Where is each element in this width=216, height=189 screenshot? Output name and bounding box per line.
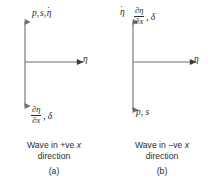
panel-b-vertical-top-label-etadot: η — [120, 8, 125, 18]
panel-b-vertical-bottom-label: p, s — [136, 108, 149, 118]
fraction-tail-delta: , δ — [43, 112, 52, 122]
panel-a-vertical-top-label: , p, s, η — [32, 9, 52, 19]
panel-b-vertical-top-label-fraction: ∂η ∂x , δ — [134, 6, 155, 26]
eta-dot-icon: η — [120, 8, 125, 18]
panel-a-caption-line2: direction — [38, 151, 70, 161]
figure-wave-direction-diagram: , p, s, η η ∂η ∂x , δ Wave in +ve x dire… — [0, 0, 216, 189]
panel-a-vertical-bottom-label: ∂η ∂x , δ — [31, 105, 52, 125]
panel-a-index-label: (a) — [0, 166, 108, 177]
panel-b: η ∂η ∂x , δ η p, s Wave in −ve x directi… — [108, 0, 216, 189]
panel-b-caption-line1-prefix: Wave in −ve — [135, 140, 185, 150]
panel-a-axes — [0, 0, 108, 135]
panel-a-caption: Wave in +ve x direction (a) — [0, 140, 108, 177]
panel-b-index-label: (b) — [108, 166, 216, 177]
panel-b-caption-line2: direction — [146, 151, 178, 161]
fraction-denominator: ∂x — [31, 116, 41, 126]
panel-b-caption: Wave in −ve x direction (b) — [108, 140, 216, 177]
panel-a-horizontal-axis-label: η — [83, 55, 88, 65]
fraction-tail-delta: , δ — [146, 13, 155, 23]
panel-b-axes — [108, 0, 216, 135]
panel-a-top-label-text: p, s, η — [32, 8, 52, 18]
panel-b-caption-line1-var: x — [185, 140, 189, 150]
partial-eta-partial-x-fraction: ∂η ∂x — [134, 6, 144, 26]
panel-a-caption-line1-var: x — [77, 140, 81, 150]
partial-eta-partial-x-fraction: ∂η ∂x — [31, 105, 41, 125]
fraction-numerator: ∂η — [134, 6, 144, 17]
panel-a-caption-line1-prefix: Wave in +ve — [27, 140, 77, 150]
eta-dot-icon: η — [47, 9, 52, 19]
panel-a: , p, s, η η ∂η ∂x , δ Wave in +ve x dire… — [0, 0, 108, 189]
panel-b-horizontal-axis-label: η — [194, 55, 199, 65]
fraction-numerator: ∂η — [31, 105, 41, 116]
fraction-denominator: ∂x — [134, 17, 144, 27]
